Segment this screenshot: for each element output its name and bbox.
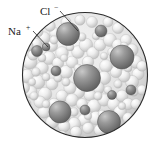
ion-sphere — [98, 111, 121, 134]
ion-sphere — [80, 105, 90, 115]
ion-sphere — [110, 45, 134, 69]
ion-sphere — [57, 23, 80, 46]
ion-sphere — [32, 46, 43, 57]
ion-sphere — [51, 66, 61, 76]
ion-sphere — [108, 91, 117, 100]
ion-sphere — [74, 65, 101, 92]
illustration-canvas: Cl − Na + — [0, 0, 162, 154]
label-cl: Cl − — [40, 3, 58, 17]
ion-sphere — [42, 43, 50, 51]
ion-sphere — [49, 101, 71, 123]
ion-sphere — [95, 25, 107, 37]
cl-label-charge: − — [54, 3, 58, 12]
solution-illustration: Cl − Na + — [0, 0, 162, 154]
na-label-charge: + — [26, 23, 30, 32]
label-na: Na + — [8, 23, 30, 37]
ion-sphere — [126, 85, 136, 95]
cl-label-symbol: Cl — [40, 5, 50, 17]
na-label-symbol: Na — [8, 25, 21, 37]
solvent-droplet — [18, 13, 147, 142]
